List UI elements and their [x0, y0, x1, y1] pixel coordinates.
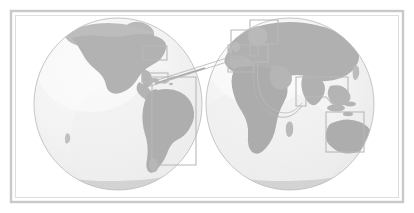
world-map-figure: World map with two hemisphere globes Sty… — [0, 0, 414, 213]
world-map-canvas — [0, 0, 414, 213]
